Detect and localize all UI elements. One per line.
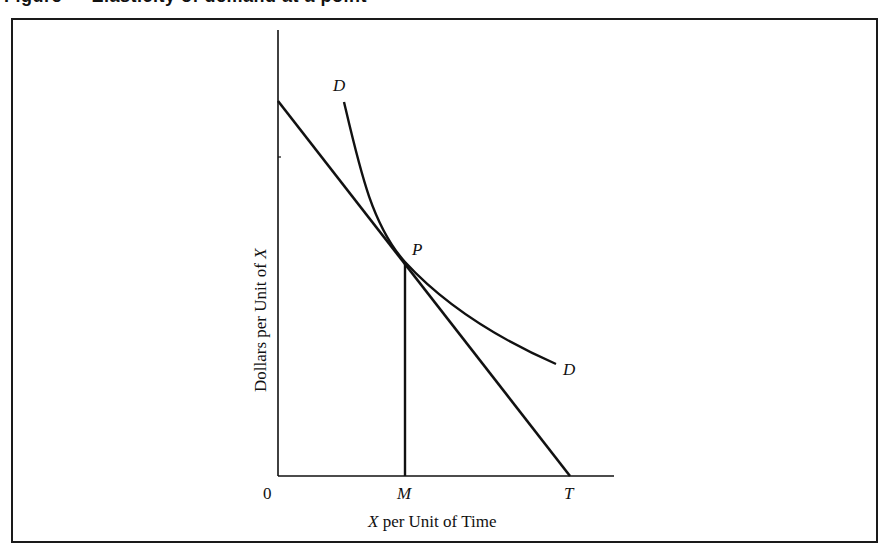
- tangent-line: [278, 101, 570, 476]
- demand-label-top: D: [332, 76, 346, 95]
- demand-tangent-diagram: D D P 0 M T X per Unit of Time Dollars p…: [0, 0, 888, 556]
- y-axis-label-prefix: Dollars per Unit of: [251, 259, 270, 392]
- point-t-label: T: [564, 484, 575, 503]
- point-p-label: P: [411, 240, 422, 259]
- y-axis-label-var: X: [251, 248, 270, 260]
- y-axis-label: Dollars per Unit of X: [251, 248, 270, 392]
- demand-label-bottom: D: [562, 360, 576, 379]
- x-axis-label: X per Unit of Time: [367, 512, 496, 531]
- x-axis-label-var: X: [367, 512, 379, 531]
- x-axis-label-suffix: per Unit of Time: [378, 512, 496, 531]
- demand-curve: [344, 102, 556, 364]
- origin-label: 0: [263, 484, 272, 503]
- point-m-label: M: [396, 484, 412, 503]
